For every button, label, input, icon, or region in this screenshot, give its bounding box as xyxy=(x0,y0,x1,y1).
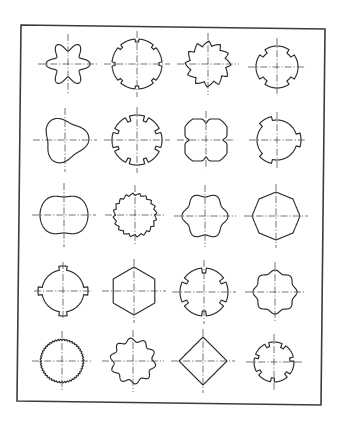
ten-lobe-wavy-spline xyxy=(102,330,164,392)
fine-serration-shaft xyxy=(105,185,165,245)
four-notch-round-shaft xyxy=(248,38,306,96)
double-flat-barrel-profile xyxy=(32,183,96,247)
stepped-lobe-spline xyxy=(246,334,302,390)
four-lobe-rounded-square xyxy=(177,111,235,169)
profile-outline xyxy=(46,118,89,162)
rounded-diamond-profile xyxy=(171,329,235,393)
shape-grid xyxy=(32,31,308,393)
sawtooth-spline xyxy=(177,33,239,95)
tri-lobe-cam-profile xyxy=(33,108,97,172)
fine-tooth-serrated-shaft xyxy=(32,331,92,391)
eight-lobe-flower-profile xyxy=(245,262,305,322)
octagonal-profile xyxy=(244,184,308,248)
six-slot-spline xyxy=(172,260,236,324)
six-point-star-profile xyxy=(38,34,98,94)
eight-groove-round-shaft xyxy=(104,31,170,97)
round-shaft-four-lugs xyxy=(34,262,92,320)
hexagonal-lobed-spline xyxy=(174,185,236,247)
shaft-profiles-diagram xyxy=(0,0,341,424)
round-shaft-three-keys xyxy=(249,112,305,168)
eight-slot-spline xyxy=(104,107,170,173)
hexagon-profile xyxy=(102,259,166,323)
